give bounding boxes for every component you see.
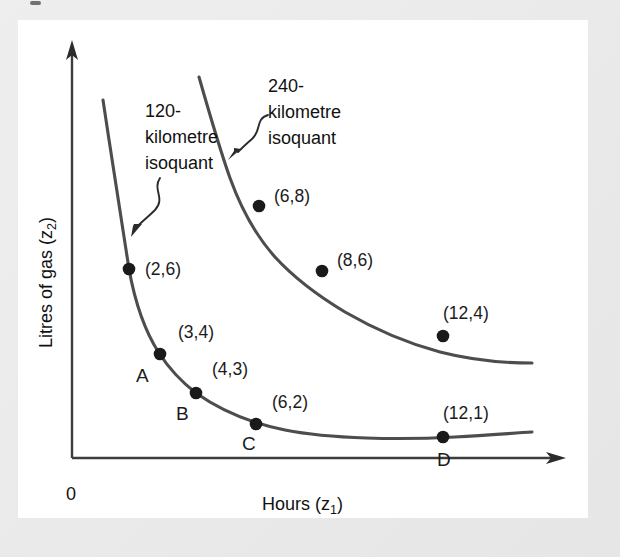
annotation-120-line-3: isoquant xyxy=(145,153,213,173)
annotation-240-line-1: 240- xyxy=(268,76,304,96)
datapoint-letter: D xyxy=(437,449,451,470)
x-axis-title-text: Hours (z xyxy=(262,494,330,514)
annotation-240-leader-line xyxy=(238,115,268,152)
datapoint-label: (12,4) xyxy=(443,303,489,323)
datapoint-marker xyxy=(123,263,136,276)
datapoint-marker xyxy=(437,330,450,343)
x-axis-title-subscript: 1 xyxy=(330,503,337,517)
annotation-240-kilometre-isoquant: 240- kilometre isoquant xyxy=(228,76,341,160)
y-axis-title-text: Litres of gas (z xyxy=(36,230,56,348)
annotation-120-kilometre-isoquant: 120- kilometre isoquant xyxy=(131,101,218,237)
annotation-120-leader-line xyxy=(136,178,160,228)
datapoint-label: (4,3) xyxy=(212,359,248,379)
x-axis-title-tail: ) xyxy=(337,494,343,514)
datapoints-240-kilometre-isoquant: (6,8) (8,6) (12,4) xyxy=(253,186,489,342)
datapoint-marker xyxy=(190,387,203,400)
datapoint-letter: C xyxy=(242,433,256,454)
datapoint-label: (6,2) xyxy=(272,392,308,412)
datapoint-label: (12,1) xyxy=(443,403,489,423)
isoquant-chart: 120- kilometre isoquant 240- kilometre i… xyxy=(0,0,620,557)
datapoint-letter: B xyxy=(176,403,189,424)
y-axis-title-tail: ) xyxy=(36,217,56,223)
annotation-120-line-1: 120- xyxy=(145,101,181,121)
datapoint-label: (6,8) xyxy=(274,186,310,206)
datapoint-marker xyxy=(154,348,167,361)
datapoint-marker xyxy=(316,265,329,278)
x-axis-title: Hours (z1) xyxy=(262,494,343,517)
annotation-240-line-2: kilometre xyxy=(268,102,341,122)
annotation-240-arrowhead xyxy=(228,148,241,160)
annotation-120-arrowhead xyxy=(131,224,142,237)
annotation-240-line-3: isoquant xyxy=(268,128,336,148)
origin-label: 0 xyxy=(66,484,76,504)
datapoint-label: (8,6) xyxy=(337,250,373,270)
figure-root: 120- kilometre isoquant 240- kilometre i… xyxy=(0,0,620,557)
datapoint-marker xyxy=(250,418,263,431)
datapoint-marker xyxy=(253,200,266,213)
annotation-120-line-2: kilometre xyxy=(145,127,218,147)
y-axis-title-subscript: 2 xyxy=(45,223,59,230)
y-axis-title: Litres of gas (z2) xyxy=(36,217,59,348)
datapoint-label: (2,6) xyxy=(145,259,181,279)
datapoint-letter: A xyxy=(136,365,149,386)
datapoint-label: (3,4) xyxy=(178,322,214,342)
datapoint-marker xyxy=(437,431,450,444)
axis-titles-group: Litres of gas (z2) Hours (z1) 0 xyxy=(36,217,343,517)
